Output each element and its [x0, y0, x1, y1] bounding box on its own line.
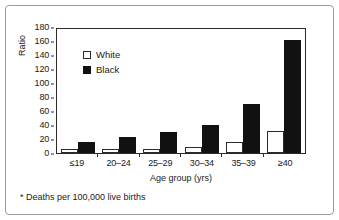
y-axis-tick-mark [51, 27, 54, 28]
x-axis-tick-mark [263, 153, 264, 157]
bar-black [78, 142, 95, 153]
x-axis-tick-mark [139, 153, 140, 157]
bar-white [61, 149, 78, 153]
chart-footnote: * Deaths per 100,000 live births [20, 192, 146, 203]
chart-canvas: Ratio 180160140120100806040200 ≤1920–242… [6, 6, 335, 216]
y-axis-tick-label: 140 [35, 50, 49, 60]
y-axis-tick-mark [51, 97, 54, 98]
y-axis-tick-mark [51, 55, 54, 56]
y-axis-tick-label: 40 [39, 120, 49, 130]
bar-white [143, 149, 160, 153]
bar-white [102, 149, 119, 153]
x-axis-tick-label: 20–24 [98, 158, 140, 169]
y-axis-tick-mark [51, 139, 54, 140]
x-axis-tick-label: 25–29 [139, 158, 181, 169]
bar-white [185, 147, 202, 153]
bar-white [226, 142, 243, 153]
black-square-icon [83, 66, 91, 74]
chart-legend: White Black [83, 48, 120, 78]
x-axis-tick-mark [97, 153, 98, 157]
x-axis-tick-label: ≤19 [56, 158, 98, 169]
bar-black [119, 137, 136, 153]
bar-group [222, 29, 263, 153]
y-axis-tick-mark [51, 69, 54, 70]
y-axis-tick-mark [51, 83, 54, 84]
y-axis-tick-mark [51, 153, 54, 154]
bar-black [160, 132, 177, 153]
y-axis-tick-mark [51, 125, 54, 126]
bar-black [284, 40, 301, 153]
x-axis-tick-label: 35–39 [223, 158, 265, 169]
y-axis-title: Ratio [17, 0, 27, 56]
y-axis-tick-label: 100 [35, 78, 49, 88]
bar-white [267, 131, 284, 153]
y-axis-tick-label: 60 [39, 106, 49, 116]
x-axis-tick-labels: ≤1920–2425–2930–3435–39≥40 [56, 158, 306, 169]
x-axis-tick-mark [221, 153, 222, 157]
x-axis-tick-label: ≥40 [264, 158, 306, 169]
legend-label-white: White [96, 49, 120, 60]
y-axis-tick-label: 180 [35, 22, 49, 32]
bar-group [181, 29, 222, 153]
figure-frame: Ratio 180160140120100806040200 ≤1920–242… [5, 5, 334, 215]
legend-item-white: White [83, 48, 120, 61]
legend-item-black: Black [83, 63, 120, 76]
x-axis-tick-label: 30–34 [181, 158, 223, 169]
y-axis-tick-label: 20 [39, 134, 49, 144]
y-axis-tick-label: 160 [35, 36, 49, 46]
y-axis-tick-mark [51, 41, 54, 42]
plot-area [56, 28, 306, 154]
bar-black [202, 125, 219, 153]
y-axis-tick-label: 80 [39, 92, 49, 102]
legend-label-black: Black [96, 64, 119, 75]
bar-group [140, 29, 181, 153]
white-square-icon [83, 51, 91, 59]
x-axis-tick-mark [180, 153, 181, 157]
y-axis-tick-label: 0 [44, 148, 49, 158]
x-axis-title: Age group (yrs) [56, 173, 306, 184]
bar-group [264, 29, 305, 153]
y-axis-tick-label: 120 [35, 64, 49, 74]
y-axis-tick-mark [51, 111, 54, 112]
bar-black [243, 104, 260, 153]
